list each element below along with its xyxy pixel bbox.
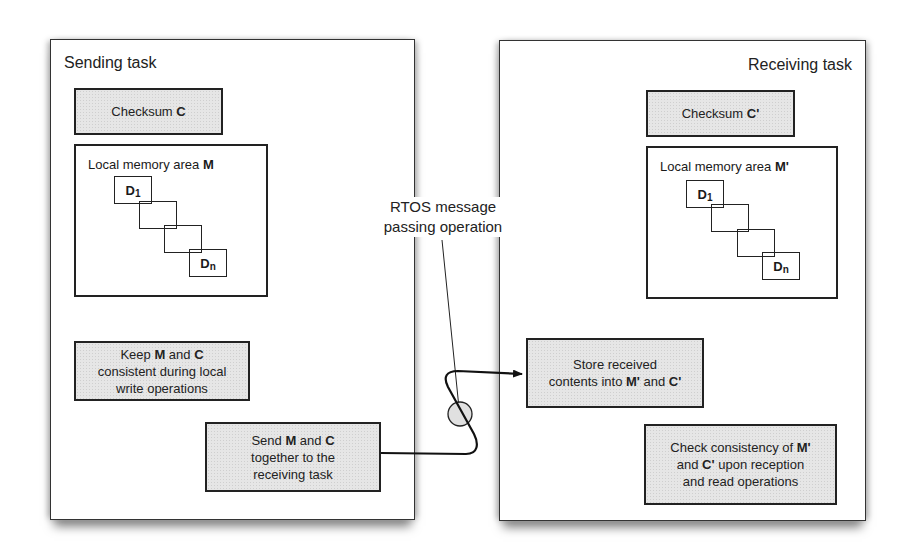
label-leader-line bbox=[442, 240, 459, 408]
message-passing-connector bbox=[0, 0, 912, 560]
rtos-message-label: RTOS message passing operation bbox=[368, 197, 518, 237]
